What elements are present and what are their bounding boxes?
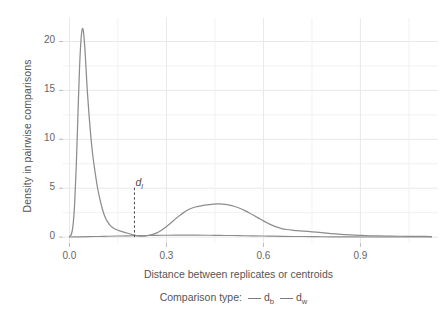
legend-item-db[interactable]: db (242, 291, 274, 303)
y-tick-label: 0 (49, 230, 55, 241)
y-axis-label: Density in pairwise comparisons (21, 31, 33, 241)
annotation-label-threshold-line: dl (135, 176, 143, 191)
x-tick-label: 0.6 (250, 250, 276, 261)
x-tick-label: 0.0 (56, 250, 82, 261)
legend: Comparison type:dbdw (0, 291, 439, 306)
legend-swatch-db (248, 298, 261, 299)
series-line-d_b (69, 29, 431, 237)
legend-label-db: db (264, 291, 274, 303)
legend-label-dw: dw (296, 291, 307, 303)
y-tick-label: 20 (44, 34, 55, 45)
x-tick-label: 0.3 (153, 250, 179, 261)
y-tick-label: 5 (49, 181, 55, 192)
x-axis-label: Distance between replicates or centroids (0, 268, 439, 280)
x-tick-label: 0.9 (347, 250, 373, 261)
x-axis-label-text: Distance between replicates or centroids (106, 268, 333, 280)
y-tick-label: 15 (44, 83, 55, 94)
legend-title: Comparison type: (160, 291, 242, 303)
legend-swatch-dw (280, 298, 293, 299)
legend-item-dw[interactable]: dw (274, 291, 307, 303)
y-tick-label: 10 (44, 132, 55, 143)
density-chart: Density in pairwise comparisons Distance… (0, 0, 439, 318)
